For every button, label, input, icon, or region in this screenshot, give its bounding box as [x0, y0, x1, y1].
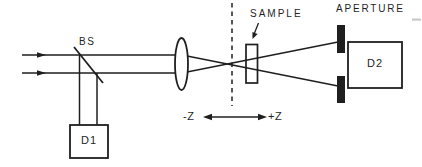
focused-beams-icon [182, 42, 338, 86]
beam-arrowhead-icon [37, 52, 46, 57]
label-z-negative: -Z [183, 111, 194, 122]
optical-setup-diagram: BS SAMPLE APERTURE D1 D2 -Z +Z [0, 0, 422, 167]
label-detector-d1: D1 [70, 135, 108, 146]
label-sample: SAMPLE [250, 9, 303, 19]
aperture-bars-icon [337, 25, 345, 103]
diagram-canvas [0, 0, 422, 167]
beam-splitter-icon [74, 47, 103, 83]
beam-arrowhead-icon [37, 70, 46, 75]
scan-artifact [412, 19, 421, 21]
label-beam-splitter: BS [79, 37, 95, 47]
label-aperture: APERTURE [336, 4, 405, 14]
lens-icon [175, 38, 188, 90]
z-axis-double-arrow-icon [203, 114, 267, 120]
label-z-positive: +Z [268, 111, 282, 122]
sample-pointer-arrow-icon [252, 23, 258, 39]
label-detector-d2: D2 [348, 58, 402, 69]
sample-cell-icon [246, 45, 258, 84]
input-beams-icon [22, 52, 182, 75]
